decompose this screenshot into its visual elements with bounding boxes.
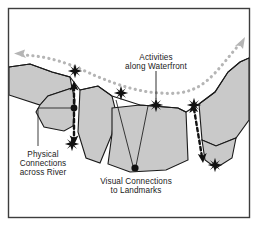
star-marker-2 bbox=[65, 137, 79, 151]
physical-label-line1: Physical bbox=[27, 150, 58, 159]
star-marker-6 bbox=[208, 158, 222, 172]
star-marker-3 bbox=[114, 86, 128, 100]
activities-label-line1: Activities bbox=[139, 53, 172, 62]
visual-label-line2: to Landmarks bbox=[111, 186, 162, 195]
physical-label-line2: Connections bbox=[20, 159, 67, 168]
waterfront-diagram: Activities along Waterfront Physical Con… bbox=[0, 0, 258, 226]
star-marker-5 bbox=[187, 98, 201, 112]
physical-label-line3: across River bbox=[20, 168, 67, 177]
visual-label-line1: Visual Connections bbox=[100, 177, 172, 186]
star-marker-4 bbox=[149, 98, 163, 112]
activities-label-line2: along Waterfront bbox=[125, 62, 187, 71]
landmark-viewpoint-dot bbox=[131, 164, 138, 171]
diagram-figure: Activities along Waterfront Physical Con… bbox=[0, 0, 258, 226]
star-marker-1 bbox=[68, 64, 82, 78]
